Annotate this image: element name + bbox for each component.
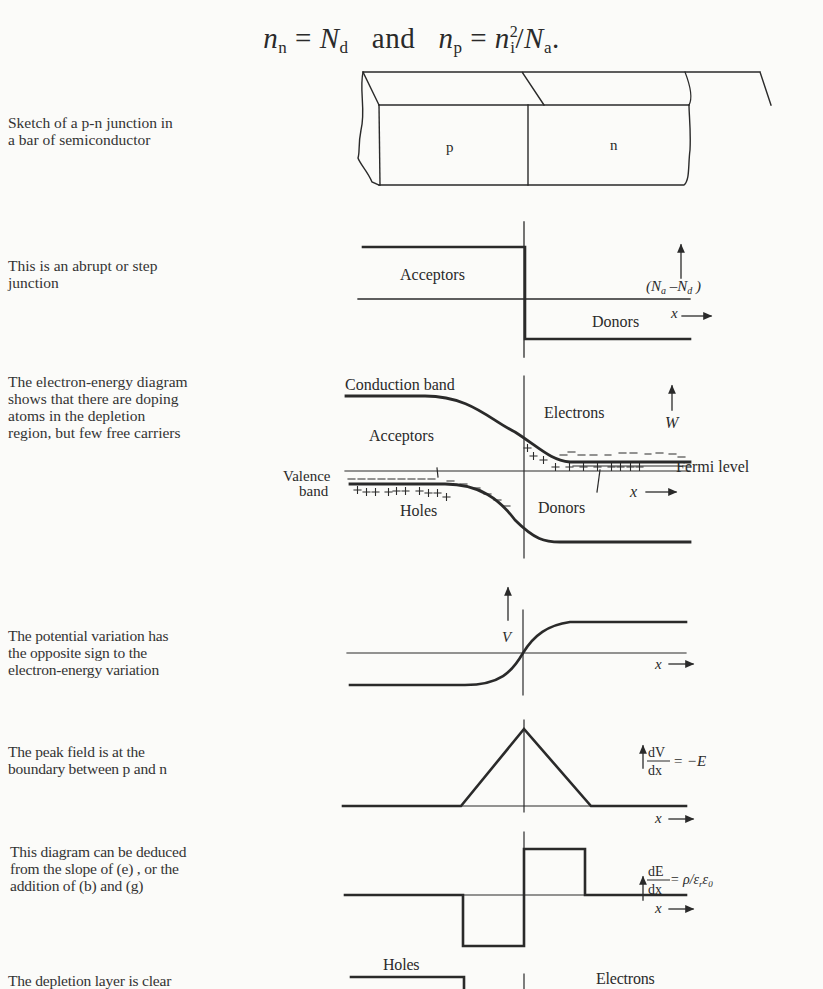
label-v-axis: V [502,629,513,645]
label-electrons-g: Electrons [596,970,655,987]
label-acceptors: Acceptors [400,266,465,284]
label-n-region: n [610,137,618,153]
label-minus-e: = −E [673,753,706,769]
label-p-region: p [446,139,454,155]
label-de: dE [648,864,664,879]
label-dv: dV [648,745,665,760]
panel-e-field [343,720,693,819]
label-x-axis-d: x [654,656,662,672]
label-band: band [299,483,329,499]
label-acceptors-c: Acceptors [369,427,434,445]
label-w-axis: W [665,414,680,431]
panel-a-bar-sketch [358,72,771,185]
label-holes: Holes [400,502,437,519]
label-valence: Valence [283,468,331,484]
label-x-axis-e: x [654,810,662,826]
label-x-axis-c: x [629,483,637,500]
label-na-nd-axis: (Na –Nd ) [646,278,701,296]
label-holes-g: Holes [383,956,419,973]
label-conduction-band: Conduction band [345,376,455,393]
label-dx-f: dx [648,882,662,897]
label-donors: Donors [592,313,639,330]
label-dx: dx [648,763,662,778]
label-fermi-level: Fermi level [676,458,750,475]
label-electrons: Electrons [544,404,604,421]
panel-f-charge-density [345,832,693,946]
label-donors-c: Donors [538,499,585,516]
panel-d-potential [347,588,693,695]
label-x-axis-f: x [654,900,662,916]
label-rho-eps: = ρ/εrε0 [670,872,713,889]
label-x-axis-b: x [670,305,678,321]
panel-g-carriers [351,974,524,989]
junction-figure: p n Acceptors Donors (Na –Nd ) x Conduct… [0,0,823,989]
